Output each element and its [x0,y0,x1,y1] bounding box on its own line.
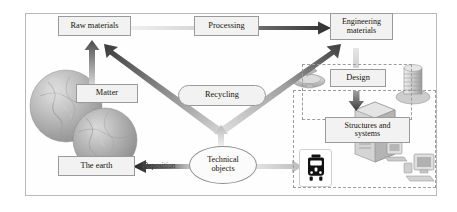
arrow-label-deposition-text: Deposition [143,162,176,170]
node-recycling[interactable]: Recycling [178,85,266,106]
node-design-label: Design [346,74,370,83]
node-matter[interactable]: Matter [76,84,138,103]
arrow-label-deposition: Deposition [143,162,176,170]
node-the-earth-label: The earth [81,162,113,171]
arrow-matter-to-raw-materials [85,40,100,86]
train-icon [305,154,327,182]
node-recycling-label: Recycling [205,91,239,100]
node-the-earth[interactable]: The earth [58,156,135,176]
node-technical-objects-label-line2: objects [211,165,234,174]
node-raw-materials[interactable]: Raw materials [58,16,131,36]
diagram-canvas: Raw materials Processing Engineering mat… [0,0,457,212]
node-engineering-materials-label-line2: materials [347,27,376,35]
train-icon-tile[interactable] [299,149,332,187]
node-processing-label: Processing [208,22,244,31]
node-technical-objects[interactable]: Technical objects [189,146,257,184]
node-processing[interactable]: Processing [194,16,259,36]
node-engineering-materials[interactable]: Engineering materials [330,13,393,40]
node-structures-systems[interactable]: Structures and systems [325,117,410,143]
node-design[interactable]: Design [330,69,386,87]
node-structures-systems-label-line2: systems [355,130,380,138]
node-raw-materials-label: Raw materials [70,22,118,31]
node-matter-label: Matter [96,89,118,98]
